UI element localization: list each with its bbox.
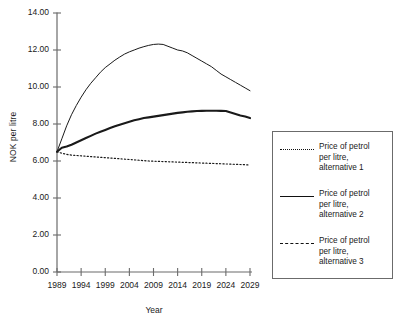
legend-item-label: Price of petrol per litre, alternative 1 (316, 142, 370, 174)
y-axis-title: NOK per litre (8, 91, 18, 183)
legend-dotted-line-icon (280, 145, 316, 155)
x-tick-label: 2029 (235, 281, 265, 290)
legend-item-1[interactable]: Price of petrol per litre, alternative 1 (280, 142, 388, 174)
series-line-1 (57, 152, 250, 165)
legend-item-2[interactable]: Price of petrol per litre, alternative 2 (280, 189, 388, 221)
y-tick-label: 14.00 (9, 8, 49, 17)
series-line-3 (57, 111, 250, 152)
data-series-group (57, 44, 250, 165)
y-tick-label: 4.00 (9, 193, 49, 202)
legend-dashed-line-icon (280, 239, 316, 249)
x-axis-title: Year (57, 305, 251, 315)
plot-area: 0.002.004.006.008.0010.0012.0014.00 1989… (0, 0, 268, 331)
chart-legend: Price of petrol per litre, alternative 1… (272, 131, 393, 279)
legend-item-3[interactable]: Price of petrol per litre, alternative 3 (280, 236, 388, 268)
y-tick-label: 2.00 (9, 230, 49, 239)
chart-root: 0.002.004.006.008.0010.0012.0014.00 1989… (0, 0, 400, 331)
axes (53, 13, 252, 277)
legend-item-label: Price of petrol per litre, alternative 3 (316, 236, 370, 268)
y-tick-label: 0.00 (9, 267, 49, 276)
series-line-2 (57, 44, 250, 152)
legend-item-label: Price of petrol per litre, alternative 2 (316, 189, 370, 221)
y-tick-label: 10.00 (9, 82, 49, 91)
y-tick-label: 12.00 (9, 45, 49, 54)
legend-solid-line-icon (280, 192, 316, 202)
